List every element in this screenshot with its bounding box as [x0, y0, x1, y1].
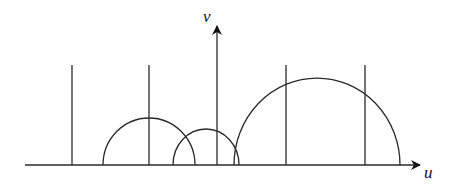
semicircle-2 — [173, 129, 239, 165]
v-axis-label: v — [203, 7, 211, 26]
u-axis-label: u — [424, 163, 433, 182]
diagram-canvas: u v — [0, 0, 456, 189]
semicircle-3 — [234, 78, 400, 165]
